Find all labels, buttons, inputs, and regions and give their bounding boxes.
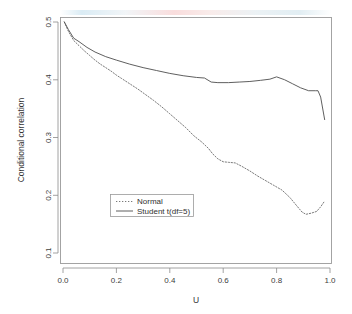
- x-tick-label-5: 1.0: [324, 276, 336, 285]
- x-tick-label-3: 0.6: [218, 276, 230, 285]
- x-tick-label-4: 0.8: [271, 276, 283, 285]
- y-tick-label-3: 0.2: [44, 189, 53, 201]
- legend-label-student-t: Student t(df=5): [137, 207, 190, 216]
- x-tick-label-1: 0.2: [111, 276, 123, 285]
- y-tick-label-2: 0.3: [44, 131, 53, 143]
- chart-figure: 0.5 0.4 0.3 0.2 0.1 Conditional correlat…: [0, 0, 352, 314]
- y-axis-title: Conditional correlation: [16, 97, 26, 182]
- y-tick-label-0: 0.5: [44, 16, 53, 28]
- x-tick-label-0: 0.0: [57, 276, 69, 285]
- series-line-normal: [64, 22, 324, 214]
- x-tick-label-2: 0.4: [164, 276, 176, 285]
- y-tick-marks: [53, 22, 58, 253]
- x-axis: 0.0 0.2 0.4 0.6 0.8 1.0: [57, 268, 336, 285]
- series-line-student-t: [64, 22, 324, 120]
- legend-label-normal: Normal: [137, 197, 163, 206]
- chart-legend: Normal Student t(df=5): [111, 195, 194, 217]
- y-axis: 0.5 0.4 0.3 0.2 0.1: [44, 16, 58, 259]
- y-tick-label-4: 0.1: [44, 247, 53, 259]
- x-tick-marks: [63, 268, 330, 273]
- conditional-correlation-plot: 0.5 0.4 0.3 0.2 0.1 Conditional correlat…: [0, 0, 352, 314]
- y-tick-label-1: 0.4: [44, 74, 53, 86]
- x-axis-title: U: [193, 295, 199, 305]
